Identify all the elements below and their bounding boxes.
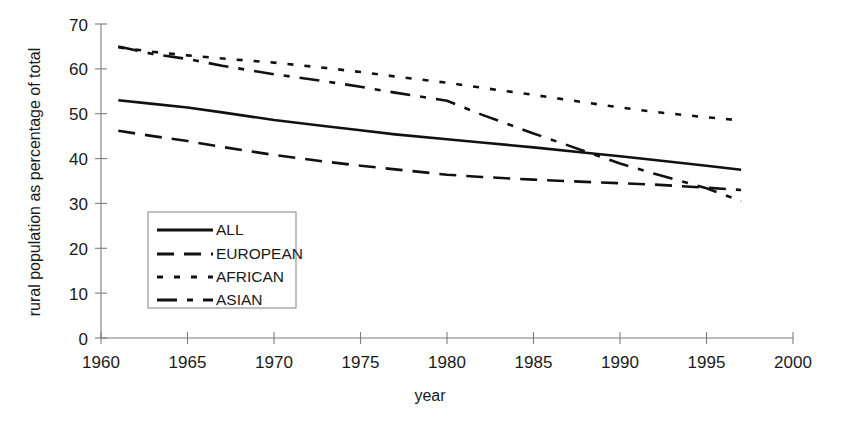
x-tick-label: 1980 [428,353,466,372]
y-tick-label: 60 [69,60,88,79]
legend: ALL EUROPEAN AFRICAN ASIAN [148,212,303,308]
legend-label: ALL [216,221,244,238]
x-tick-label: 1990 [601,353,639,372]
x-tick-label: 1985 [515,353,553,372]
x-tick-label: 2000 [774,353,812,372]
y-axis-title: rural population as percentage of total [26,48,43,317]
y-tick-label: 30 [69,195,88,214]
legend-label: AFRICAN [216,268,284,285]
x-axis-title: year [414,387,446,404]
x-tick-label: 1975 [342,353,380,372]
y-tick-label: 40 [69,150,88,169]
chart-container: 0 10 20 30 40 50 60 70 1960 1965 1970 1 [0,0,847,422]
legend-label: EUROPEAN [216,245,303,262]
x-axis-tick-labels: 1960 1965 1970 1975 1980 1985 1990 1995 … [82,353,812,372]
y-tick-label: 50 [69,105,88,124]
y-tick-label: 0 [79,330,88,349]
y-tick-label: 10 [69,285,88,304]
y-tick-label: 70 [69,16,88,35]
x-tick-label: 1995 [688,353,726,372]
x-tick-label: 1970 [255,353,293,372]
legend-label: ASIAN [216,291,263,308]
y-tick-label: 20 [69,240,88,259]
x-tick-label: 1960 [82,353,120,372]
x-tick-label: 1965 [169,353,207,372]
line-chart: 0 10 20 30 40 50 60 70 1960 1965 1970 1 [0,0,847,422]
